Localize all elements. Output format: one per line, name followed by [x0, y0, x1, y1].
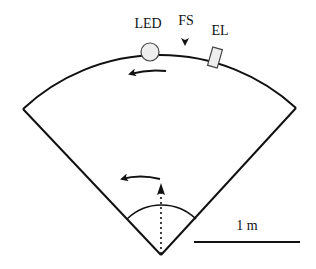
el-label: EL — [211, 23, 228, 38]
fs-marker-icon — [181, 38, 189, 46]
outer-arc — [23, 55, 296, 109]
scale-label: 1 m — [236, 218, 258, 233]
fs-label: FS — [178, 13, 194, 28]
lower-rotation-arrow — [122, 177, 160, 180]
led-icon — [141, 43, 159, 61]
sector-right-edge — [161, 108, 296, 255]
led-label: LED — [134, 16, 161, 31]
diagram-svg: LED FS EL 1 m — [0, 0, 316, 269]
sector-left-edge — [23, 109, 161, 255]
upper-rotation-arrow — [130, 70, 166, 74]
sector-diagram: LED FS EL 1 m — [0, 0, 316, 269]
